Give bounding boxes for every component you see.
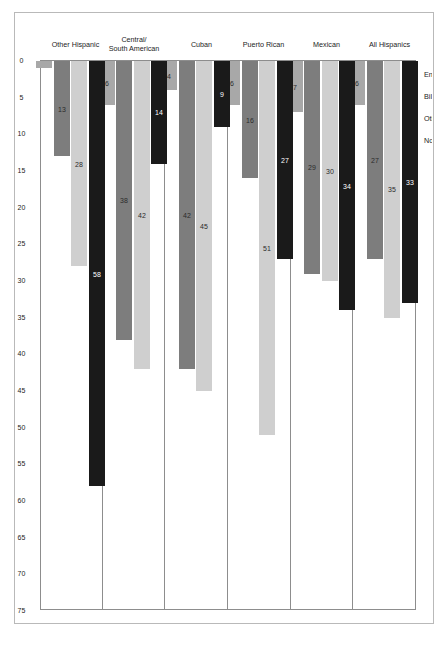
category-tick-label: Other Hispanic xyxy=(45,39,108,48)
bar-value-label: 9 xyxy=(220,91,224,98)
bar-row: 35 xyxy=(384,61,400,611)
value-tick-label: 65 xyxy=(18,533,26,540)
value-tick-label: 35 xyxy=(18,313,26,320)
legend-label: Other monoliterate xyxy=(424,114,432,123)
bar-row: 28 xyxy=(71,61,87,611)
chart-page: 757065605550454035302520151050 All Hispa… xyxy=(0,0,447,646)
value-tick-label: 5 xyxy=(20,93,24,100)
bar-value-label: 14 xyxy=(155,109,163,116)
legend-label: English monoliterate xyxy=(424,70,432,79)
bar-row: 51 xyxy=(259,61,275,611)
legend-label: Not literate xyxy=(424,136,432,145)
rotated-figure-wrapper: 757065605550454035302520151050 All Hispa… xyxy=(14,12,432,622)
bar-value-label: 6 xyxy=(355,80,359,87)
category-group: 945424 xyxy=(164,61,227,609)
bar-row: 38 xyxy=(116,61,132,611)
category-group: 3430297 xyxy=(290,61,353,609)
bar-value-label: 42 xyxy=(138,212,146,219)
category-group: 3335276 xyxy=(352,61,415,609)
bar-row: 42 xyxy=(179,61,195,611)
category-group: 582813 xyxy=(39,61,102,609)
value-tick-label: 20 xyxy=(18,203,26,210)
bar-value-label: 58 xyxy=(92,270,100,277)
category-group: 1442386 xyxy=(102,61,165,609)
bar-value-label: 27 xyxy=(371,157,379,164)
bar-value-label: 30 xyxy=(326,168,334,175)
value-tick-label: 60 xyxy=(18,497,26,504)
bar-row: 13 xyxy=(54,61,70,611)
value-tick-label: 40 xyxy=(18,350,26,357)
value-tick-label: 15 xyxy=(18,167,26,174)
bar-value-label: 6 xyxy=(105,80,109,87)
bar-row: 30 xyxy=(322,61,338,611)
category-tick-label: Central/ South American xyxy=(103,35,166,53)
value-tick-label: 55 xyxy=(18,460,26,467)
category-tick-label: Mexican xyxy=(295,39,358,48)
bar-row: 27 xyxy=(367,61,383,611)
bar-chart-figure: 757065605550454035302520151050 All Hispa… xyxy=(14,12,432,622)
bar-row: 29 xyxy=(304,61,320,611)
bar-row: 27 xyxy=(277,61,293,611)
bar-row: 9 xyxy=(214,61,230,611)
bar-row: 42 xyxy=(134,61,150,611)
bar-row: 33 xyxy=(402,61,418,611)
bar-value-label: 27 xyxy=(280,157,288,164)
value-tick-label: 75 xyxy=(18,607,26,614)
bar-value-label: 28 xyxy=(75,160,83,167)
bar-value-label: 29 xyxy=(308,164,316,171)
bar[interactable] xyxy=(36,61,52,68)
value-tick-label: 70 xyxy=(18,570,26,577)
bar-row xyxy=(36,61,52,611)
category-tick-label: Puerto Rican xyxy=(233,39,296,48)
bar-row: 45 xyxy=(196,61,212,611)
category-tick-label: Cuban xyxy=(170,39,233,48)
bar-value-label: 4 xyxy=(167,72,171,79)
bar-value-label: 6 xyxy=(230,80,234,87)
category-group: 2751166 xyxy=(227,61,290,609)
bar-value-label: 45 xyxy=(200,223,208,230)
bar-row: 58 xyxy=(89,61,105,611)
bar-value-label: 34 xyxy=(343,182,351,189)
bar-value-label: 38 xyxy=(120,197,128,204)
value-tick-label: 25 xyxy=(18,240,26,247)
value-tick-label: 30 xyxy=(18,277,26,284)
plot-area: 3335276343029727511669454241442386582813 xyxy=(40,60,416,610)
bar-value-label: 7 xyxy=(293,83,297,90)
value-tick-label: 10 xyxy=(18,130,26,137)
bar-value-label: 42 xyxy=(183,212,191,219)
value-tick-label: 50 xyxy=(18,423,26,430)
bar-value-label: 13 xyxy=(58,105,66,112)
bar-row: 16 xyxy=(242,61,258,611)
value-tick-label: 0 xyxy=(20,57,24,64)
category-tick-label: All Hispanics xyxy=(358,39,421,48)
bar-value-label: 33 xyxy=(406,179,414,186)
bar-row: 34 xyxy=(339,61,355,611)
bar-value-label: 16 xyxy=(246,116,254,123)
bar-value-label: 35 xyxy=(388,186,396,193)
value-tick-label: 45 xyxy=(18,387,26,394)
bar-value-label: 51 xyxy=(263,245,271,252)
legend-label: Biliterate xyxy=(424,92,432,101)
bar-row: 14 xyxy=(151,61,167,611)
